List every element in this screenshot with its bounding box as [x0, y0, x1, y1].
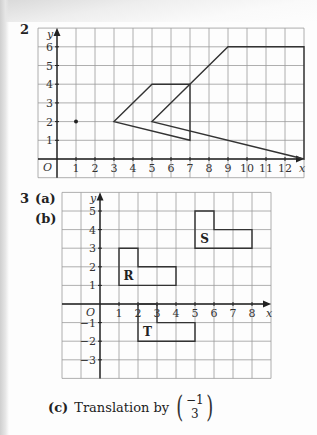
vector-bottom: 3: [191, 407, 199, 421]
x-tick-label: 8: [249, 307, 256, 320]
y-tick-label: 1: [89, 279, 96, 292]
part-c-text: Translation by: [74, 400, 169, 415]
left-paren: (: [177, 392, 184, 422]
x-axis-label: x: [266, 307, 273, 320]
y-tick-label: −1: [80, 317, 96, 330]
y-tick-label: −3: [80, 354, 96, 367]
part-c-label: (c): [48, 400, 68, 415]
shape-label: R: [124, 269, 135, 283]
right-paren: ): [206, 392, 213, 422]
y-tick-label: −2: [80, 335, 96, 348]
y-tick-label: 5: [89, 205, 96, 218]
x-tick-label: 1: [116, 307, 123, 320]
question-3-graph: xyO1234567812345−1−2−3RST: [0, 0, 317, 435]
y-tick-label: 3: [89, 242, 96, 255]
y-axis-arrow-icon: [97, 192, 104, 200]
y-tick-label: 4: [89, 224, 96, 237]
x-tick-label: 4: [173, 307, 180, 320]
x-tick-label: 5: [192, 307, 199, 320]
x-tick-label: 6: [211, 307, 218, 320]
shape-label: T: [143, 325, 152, 339]
shape-label: S: [200, 232, 209, 246]
question-3-part-c: (c) Translation by ( −1 3 ): [48, 392, 215, 422]
translation-vector: ( −1 3 ): [174, 392, 215, 422]
vector-top: −1: [186, 393, 204, 407]
y-axis-label: y: [89, 192, 97, 205]
x-tick-label: 7: [230, 307, 237, 320]
y-tick-label: 2: [89, 261, 96, 274]
